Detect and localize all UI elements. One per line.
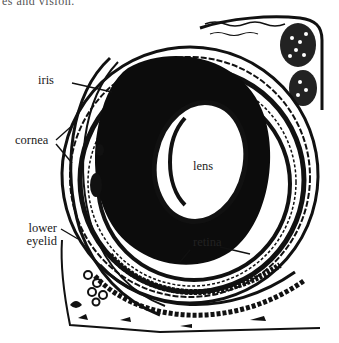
eye-diagram: [0, 0, 339, 343]
eyelid-texture: [70, 301, 266, 328]
label-lower-eyelid: lower eyelid: [25, 222, 57, 248]
label-retina: retina: [193, 236, 221, 249]
label-lower-eyelid-line2: eyelid: [25, 235, 57, 248]
label-cornea: cornea: [15, 134, 48, 147]
label-iris: iris: [38, 74, 54, 87]
label-lens: lens: [193, 160, 213, 173]
